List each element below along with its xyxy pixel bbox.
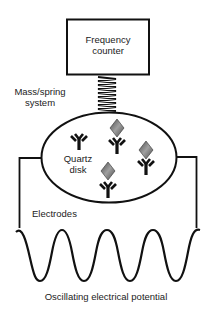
frequency-counter-label: Frequency counter [67,34,149,56]
mass-spring-line2: system [4,97,76,108]
electrode-right [176,157,197,228]
electrodes-label: Electrodes [32,208,77,219]
frequency-counter-line2: counter [67,45,149,56]
mass-spring-line1: Mass/spring [4,86,76,97]
frequency-counter-line1: Frequency [67,34,149,45]
qcm-diagram: Frequency counter Mass/spring system Qua… [0,0,212,313]
spring-icon [98,77,116,111]
quartz-line2: disk [52,164,104,175]
oscillating-label: Oscillating electrical potential [0,291,212,302]
quartz-line1: Quartz [52,153,104,164]
quartz-disk-label: Quartz disk [52,153,104,175]
oscillating-wave [16,230,200,281]
mass-spring-label: Mass/spring system [4,86,76,108]
